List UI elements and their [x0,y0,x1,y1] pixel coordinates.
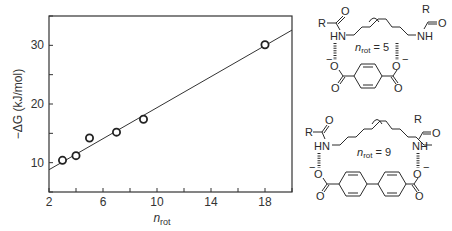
carbonyl-o-right: O [432,127,441,139]
nrot-label-5: nrot = 5 [355,41,389,55]
axis-tick-labels: 26101418102030 [31,38,272,209]
nrot-label-9: nrot = 9 [357,146,391,160]
x-axis-label-sub: rot [160,217,171,227]
nh-left: HN [314,140,330,152]
y-tick-label: 20 [31,97,45,111]
benzene-ring-right [378,172,406,196]
r-group-right: R [414,113,422,125]
plot-area: 26101418102030 −ΔG (kJ/mol) nrot [11,16,292,227]
data-point [140,116,147,123]
x-tick-label: 6 [100,195,107,209]
figure: 26101418102030 −ΔG (kJ/mol) nrot R O HN … [0,0,452,231]
carbonyl-o-bottom-right: O [415,190,424,202]
nh-left: HN [330,30,346,42]
carbonyl-o-bottom-left: O [331,82,340,94]
carbonyl-o-left: O [325,114,334,126]
r-group-left: R [305,126,313,138]
carbonyl-o-left: O [341,5,350,17]
x-tick-label: 14 [204,195,218,209]
fit-line [49,30,292,170]
x-tick-label: 2 [46,195,53,209]
plot-frame [49,16,292,192]
x-axis-label: nrot [153,211,171,227]
data-point [72,152,79,159]
data-point [59,157,66,164]
nh-right: NH [417,30,433,42]
carbonyl-o-bottom-left: O [316,190,325,202]
rotation-arrow-icon [369,18,379,22]
x-tick-label: 18 [258,195,272,209]
nh-right: NH [412,140,428,152]
y-tick-label: 30 [31,38,45,52]
carbonyl-o-right: O [438,17,447,29]
r-group-left: R [318,17,326,29]
svg-text:−: − [309,161,315,173]
svg-text:−: − [326,53,332,65]
structure-nrot-5: R O HN NH R O nrot = 5 O − O − O [318,3,447,94]
data-point [86,134,93,141]
y-tick-label: 10 [31,156,45,170]
x-tick-label: 10 [150,195,164,209]
benzene-ring-left [339,172,367,196]
carbonyl-o-bottom-right: O [394,82,403,94]
benzene-ring [354,64,382,88]
data-point [113,129,120,136]
structure-nrot-9: R O HN NH R O nrot = 9 O − O − O [305,113,441,202]
svg-text:−: − [423,161,429,173]
axis-ticks [49,16,292,192]
data-point [261,41,268,48]
svg-text:−: − [402,53,408,65]
y-axis-label: −ΔG (kJ/mol) [11,69,25,139]
r-group-right: R [422,3,430,15]
